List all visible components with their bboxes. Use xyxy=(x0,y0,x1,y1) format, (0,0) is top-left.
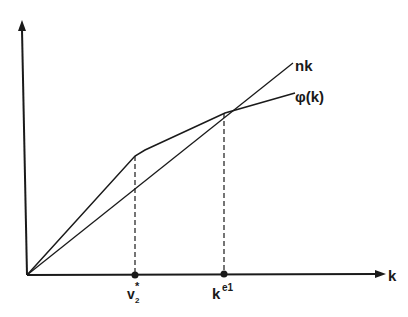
diagram-canvas: nk φ(k) k v 2 * k e1 xyxy=(0,0,408,317)
svg-text:2: 2 xyxy=(135,296,140,305)
phi-label: φ(k) xyxy=(295,88,324,105)
svg-text:e1: e1 xyxy=(222,282,234,293)
diagram-svg: nk φ(k) k v 2 * k e1 xyxy=(0,0,408,317)
svg-text:k: k xyxy=(212,285,221,302)
x-axis-arrow-icon xyxy=(375,270,386,278)
y-axis-arrow-icon xyxy=(18,20,26,31)
x-axis-label: k xyxy=(388,267,397,284)
v2-star-label: v 2 * xyxy=(127,280,140,305)
ke1-label: k e1 xyxy=(212,282,234,302)
phi-curve xyxy=(27,93,295,275)
ke1-point xyxy=(221,271,228,278)
nk-line xyxy=(27,63,293,275)
svg-text:*: * xyxy=(135,280,140,292)
x-axis xyxy=(27,270,386,278)
v2-point xyxy=(132,272,139,279)
nk-label: nk xyxy=(295,57,313,74)
y-axis xyxy=(18,20,27,275)
svg-text:v: v xyxy=(127,286,135,302)
